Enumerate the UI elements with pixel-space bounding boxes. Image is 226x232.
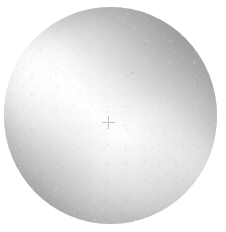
surface-speck [165,148,166,149]
surface-speck [88,176,89,177]
image-canvas: circular specimen disc [0,0,226,232]
surface-speck [146,112,147,113]
surface-speck [127,75,128,76]
surface-speck [131,72,133,74]
specimen-disc [0,0,226,232]
fiducial-cross-icon [102,116,115,129]
fiducial-cross-vertical [108,116,109,129]
surface-speck [52,96,53,97]
